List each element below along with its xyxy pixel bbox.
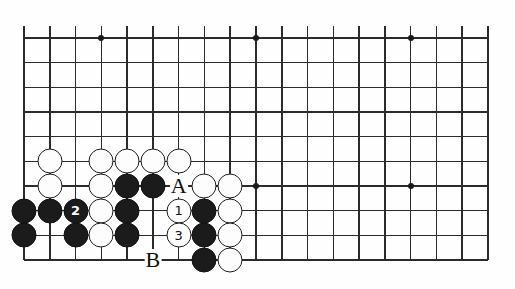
star-point [253, 35, 259, 41]
white-stone[interactable] [218, 174, 243, 199]
star-point [408, 35, 414, 41]
white-stone[interactable] [218, 198, 243, 223]
grid-line-horizontal [24, 111, 488, 113]
white-stone[interactable] [218, 223, 243, 248]
black-stone[interactable] [192, 198, 217, 223]
move-number: 1 [175, 204, 183, 217]
white-stone[interactable] [37, 174, 62, 199]
black-stone[interactable] [140, 174, 165, 199]
point-label-a: A [170, 175, 188, 197]
white-stone-move-1[interactable]: 1 [166, 198, 191, 223]
white-stone[interactable] [89, 223, 114, 248]
black-stone[interactable] [115, 174, 140, 199]
grid-line-horizontal [24, 259, 488, 261]
black-stone[interactable] [115, 223, 140, 248]
white-stone[interactable] [37, 149, 62, 174]
star-point [98, 35, 104, 41]
white-stone[interactable] [140, 149, 165, 174]
move-number: 2 [71, 204, 80, 217]
black-stone[interactable] [115, 198, 140, 223]
grid-line-horizontal [24, 87, 488, 89]
white-stone-move-3[interactable]: 3 [166, 223, 191, 248]
black-stone[interactable] [63, 223, 88, 248]
black-stone[interactable] [12, 198, 37, 223]
star-point [253, 183, 259, 189]
black-stone[interactable] [192, 223, 217, 248]
go-diagram: 213AB [0, 0, 515, 289]
star-point [408, 183, 414, 189]
grid-line-horizontal [24, 62, 488, 64]
grid-line-horizontal [24, 136, 488, 138]
black-stone-move-2[interactable]: 2 [63, 198, 88, 223]
move-number: 3 [175, 228, 183, 241]
point-label-b: B [145, 249, 162, 271]
white-stone[interactable] [115, 149, 140, 174]
white-stone[interactable] [192, 174, 217, 199]
white-stone[interactable] [218, 248, 243, 273]
black-stone[interactable] [37, 198, 62, 223]
go-board: 213AB [0, 0, 515, 289]
black-stone[interactable] [12, 223, 37, 248]
white-stone[interactable] [89, 149, 114, 174]
white-stone[interactable] [89, 174, 114, 199]
black-stone[interactable] [192, 248, 217, 273]
white-stone[interactable] [166, 149, 191, 174]
white-stone[interactable] [89, 198, 114, 223]
